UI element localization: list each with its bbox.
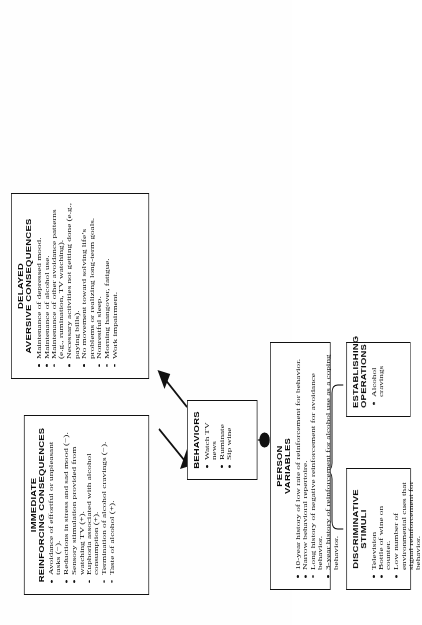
diagram-canvas: IMMEDIATE REINFORCING CONSEQUENCES Avoid… xyxy=(0,0,292,625)
node-title-line1: BEHAVIORS xyxy=(193,411,201,469)
list-item: Reductions in stress and sad mood (−). xyxy=(63,424,70,575)
junction-dot-upper xyxy=(259,433,270,448)
node-item-list: Watch TV news Ruminate Sip wine xyxy=(203,409,233,471)
node-title-line2: AVERSIVE CONSEQUENCES xyxy=(25,219,33,354)
node-item-list: Avoidance of effortful or unpleasant tas… xyxy=(48,424,116,586)
list-item: Low number of environmental cues that si… xyxy=(393,477,422,570)
node-title-line2: REINFORCING CONSEQUENCES xyxy=(37,428,45,583)
node-discriminative-stimuli[interactable]: DISCRIMINATIVE STIMULI Television Bottle… xyxy=(346,468,411,590)
node-title: ESTABLISHING OPERATIONS xyxy=(352,351,367,408)
list-item: 3-year history of reinforcement for alco… xyxy=(324,351,339,570)
node-title-line2: VARIABLES xyxy=(283,438,291,494)
node-title: DISCRIMINATIVE STIMULI xyxy=(352,477,367,581)
list-item: Work impairment. xyxy=(111,202,118,359)
node-item-list: 10-year history of low rate of reinforce… xyxy=(294,351,339,581)
node-immediate-reinforcing-consequences[interactable]: IMMEDIATE REINFORCING CONSEQUENCES Avoid… xyxy=(24,415,149,595)
list-item: Taste of alcohol (+). xyxy=(108,424,115,575)
list-item: Morning hangover, fatigue. xyxy=(103,202,110,359)
arrow-behaviors-to-immediate-shaft xyxy=(159,429,186,462)
list-item: No movement toward solving life’s proble… xyxy=(80,202,95,359)
list-item: 10-year history of low rate of reinforce… xyxy=(294,351,301,570)
list-item: Euphoria associated with alcohol consump… xyxy=(85,424,100,575)
node-title-line2: STIMULI xyxy=(359,509,367,548)
node-title: DELAYED AVERSIVE CONSEQUENCES xyxy=(17,202,32,370)
list-item: Avoidance of effortful or unpleasant tas… xyxy=(48,424,63,575)
list-item: Nonrestful sleep. xyxy=(95,202,102,359)
node-item-list: Television Bottle of wine on counter. Lo… xyxy=(370,477,422,581)
list-item: Termination of alcohol cravings (−). xyxy=(100,424,107,575)
list-item: Sensory stimulation provided from watchi… xyxy=(70,424,85,575)
list-item: Ruminate xyxy=(218,409,225,460)
list-item: Television xyxy=(370,477,377,570)
node-item-list: Alcohol cravings xyxy=(370,351,385,408)
node-title: PERSON VARIABLES xyxy=(276,351,291,581)
node-title-line1: DISCRIMINATIVE xyxy=(352,489,360,569)
node-title: BEHAVIORS xyxy=(193,409,201,471)
list-item: Narrow behavioral repertoire. xyxy=(302,351,309,570)
node-title-line1: ESTABLISHING xyxy=(352,336,360,408)
node-person-variables[interactable]: PERSON VARIABLES 10-year history of low … xyxy=(270,342,330,590)
list-item: Maintenance of other avoidance patterns … xyxy=(51,202,66,359)
node-title-line2: OPERATIONS xyxy=(359,344,367,408)
arrow-behaviors-to-delayed-head xyxy=(158,370,171,389)
node-title-line1: DELAYED xyxy=(17,263,25,309)
list-item: Maintenance of alcohol use. xyxy=(43,202,50,359)
list-item: Long history of negative reinforcement f… xyxy=(309,351,324,570)
node-delayed-aversive-consequences[interactable]: DELAYED AVERSIVE CONSEQUENCES Maintenanc… xyxy=(11,193,149,379)
node-item-list: Maintenance of depressed mood. Maintenan… xyxy=(35,202,118,370)
node-title-line1: IMMEDIATE xyxy=(30,478,38,532)
list-item: Necessary activities not getting done (e… xyxy=(66,202,81,359)
node-title-line1: PERSON xyxy=(276,445,284,486)
list-item: Bottle of wine on counter. xyxy=(378,477,393,570)
list-item: Watch TV news xyxy=(203,409,218,460)
list-item: Alcohol cravings xyxy=(370,351,385,397)
node-behaviors[interactable]: BEHAVIORS Watch TV news Ruminate Sip win… xyxy=(187,400,257,480)
node-title: IMMEDIATE REINFORCING CONSEQUENCES xyxy=(30,424,45,586)
node-establishing-operations[interactable]: ESTABLISHING OPERATIONS Alcohol cravings xyxy=(346,342,411,417)
list-item: Maintenance of depressed mood. xyxy=(35,202,42,359)
list-item: Sip wine xyxy=(226,409,233,460)
